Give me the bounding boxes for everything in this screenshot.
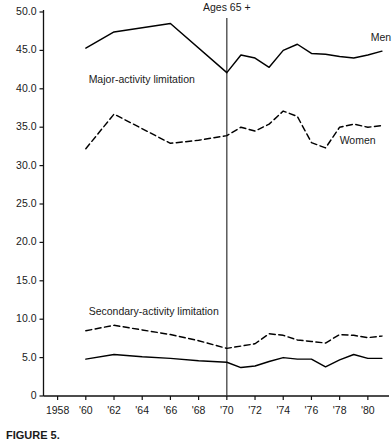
annotation-major-activity-limitation: Major-activity limitation: [89, 73, 195, 85]
x-tick-label-1970: '70: [220, 404, 234, 416]
series-label-women: Women: [340, 134, 376, 146]
x-tick-label-1978: '78: [333, 404, 347, 416]
x-tick-label-1960: '60: [79, 404, 93, 416]
y-tick-label-10.0: 10.0: [16, 312, 36, 324]
y-tick-label-30.0: 30.0: [16, 159, 36, 171]
y-tick-label-45.0: 45.0: [16, 43, 36, 55]
y-tick-label-20.0: 20.0: [16, 235, 36, 247]
x-tick-label-1968: '68: [192, 404, 206, 416]
x-tick-label-1962: '62: [107, 404, 121, 416]
y-tick-label-15.0: 15.0: [16, 274, 36, 286]
y-tick-label-0: 0: [31, 389, 37, 401]
series-line-major-activity-limitation-women: [86, 111, 382, 149]
line-chart: [0, 0, 392, 441]
x-tick-label-1980: '80: [361, 404, 375, 416]
series-line-secondary-activity-limitation-men: [86, 355, 382, 368]
series-line-secondary-activity-limitation-women: [86, 325, 382, 348]
x-tick-label-1966: '66: [164, 404, 178, 416]
figure-container: FIGURE 5. 05.010.015.020.025.030.035.040…: [0, 0, 392, 441]
x-tick-label-1964: '64: [135, 404, 149, 416]
series-label-men: Men: [371, 31, 391, 43]
y-tick-label-50.0: 50.0: [16, 5, 36, 17]
annotation-secondary-activity-limitation: Secondary-activity limitation: [89, 305, 219, 317]
x-tick-label-1976: '76: [305, 404, 319, 416]
x-tick-label-1958: 1958: [46, 404, 69, 416]
y-tick-label-25.0: 25.0: [16, 197, 36, 209]
figure-caption: FIGURE 5.: [6, 429, 60, 441]
y-tick-label-5.0: 5.0: [22, 351, 37, 363]
y-tick-label-40.0: 40.0: [16, 82, 36, 94]
y-tick-label-35.0: 35.0: [16, 120, 36, 132]
x-tick-label-1972: '72: [248, 404, 262, 416]
series-line-major-activity-limitation-men: [86, 24, 382, 73]
annotation-ages-65-plus: Ages 65 +: [203, 1, 251, 13]
x-tick-label-1974: '74: [276, 404, 290, 416]
